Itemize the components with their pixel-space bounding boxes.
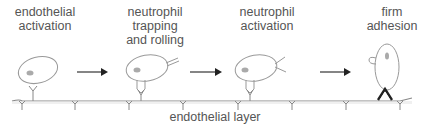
neutrophil-cell-icon bbox=[124, 52, 170, 85]
nucleus-icon bbox=[134, 68, 141, 73]
endothelial-layer bbox=[12, 98, 412, 110]
nucleus-icon bbox=[27, 71, 34, 76]
selectin-receptor-icon bbox=[138, 90, 144, 101]
nucleus-icon bbox=[385, 53, 389, 60]
firm-adhesion-bond-icon bbox=[378, 89, 392, 100]
stage-4-firm-adhesion bbox=[369, 44, 399, 100]
selectin-receptor-icon bbox=[29, 86, 37, 101]
neutrophil-cell-icon bbox=[375, 44, 399, 90]
arrow-right-icon bbox=[320, 68, 351, 76]
endothelial-layer-label: endothelial layer bbox=[130, 110, 300, 124]
arrow-right-icon bbox=[77, 68, 108, 76]
arrow-right-icon bbox=[190, 68, 222, 76]
neutrophil-cell-icon bbox=[233, 52, 279, 85]
selectin-receptor-icon bbox=[247, 90, 253, 101]
stage-1-endothelial-activation bbox=[15, 52, 60, 101]
stage-3-neutrophil-activation bbox=[233, 52, 286, 101]
stage-2-neutrophil-trapping-rolling bbox=[124, 52, 179, 101]
nucleus-icon bbox=[242, 68, 249, 73]
neutrophil-cell-icon bbox=[15, 52, 60, 87]
